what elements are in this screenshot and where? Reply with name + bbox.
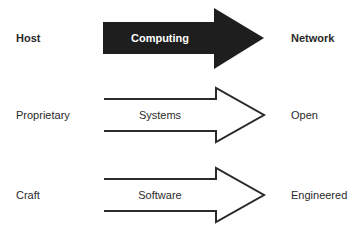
to-label-network: Network — [291, 32, 334, 45]
arrow-label-software: Software — [130, 189, 190, 202]
from-label-craft: Craft — [16, 189, 40, 202]
from-label-proprietary: Proprietary — [16, 109, 70, 122]
to-label-open: Open — [291, 109, 318, 122]
arrow-label-computing: Computing — [130, 32, 190, 45]
to-label-engineered: Engineered — [291, 189, 347, 202]
from-label-host: Host — [16, 32, 40, 45]
arrow-label-systems: Systems — [130, 109, 190, 122]
